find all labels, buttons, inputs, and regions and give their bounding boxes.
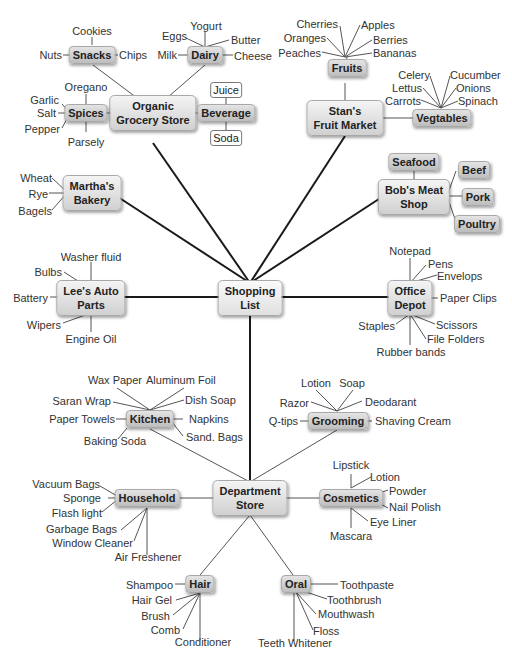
soda-node[interactable]: Soda — [210, 130, 242, 146]
node-label: Shopping — [225, 284, 276, 298]
leaf-item: Cheese — [234, 50, 272, 62]
node-label: Bakery — [70, 193, 115, 207]
leaf-item: Nail Polish — [389, 501, 441, 513]
seafood-node[interactable]: Seafood — [388, 153, 439, 171]
leaf-item: Shampoo — [126, 579, 173, 591]
leaf-item: Onions — [456, 82, 491, 94]
leaf-item: Q-tips — [269, 415, 298, 427]
hair-node[interactable]: Hair — [185, 575, 214, 593]
lees-auto-parts-node[interactable]: Lee's Auto Parts — [56, 280, 125, 316]
leaf-item: Garlic — [30, 94, 59, 106]
leaf-item: Engine Oil — [66, 333, 117, 345]
bobs-meat-shop-node[interactable]: Bob's Meat Shop — [378, 179, 450, 215]
node-label: Fruit Market — [314, 118, 377, 132]
leaf-item: Wax Paper — [88, 374, 142, 386]
leaf-item: Butter — [231, 34, 260, 46]
leaf-item: Deodarant — [365, 396, 416, 408]
leaf-item: Paper Clips — [440, 292, 497, 304]
leaf-item: Window Cleaner — [52, 537, 133, 549]
juice-node[interactable]: Juice — [210, 82, 242, 98]
leaf-item: Apples — [361, 19, 395, 31]
node-label: Bob's Meat — [385, 183, 443, 197]
node-label: Organic — [116, 99, 189, 113]
leaf-item: Mascara — [330, 530, 372, 542]
leaf-item: Oranges — [284, 32, 326, 44]
vegtables-node[interactable]: Vegtables — [412, 109, 471, 127]
leaf-item: Cookies — [72, 25, 112, 37]
leaf-item: Paper Towels — [49, 413, 115, 425]
pork-node[interactable]: Pork — [462, 188, 494, 206]
beverage-node[interactable]: Beverage — [197, 104, 255, 122]
leaf-item: Cherries — [296, 18, 338, 30]
leaf-item: Lotion — [370, 471, 400, 483]
marthas-bakery-node[interactable]: Martha's Bakery — [63, 175, 122, 211]
fruits-node[interactable]: Fruits — [328, 59, 367, 77]
leaf-item: Lotion — [301, 377, 331, 389]
leaf-item: Oregano — [65, 81, 108, 93]
leaf-item: Comb — [151, 624, 180, 636]
leaf-item: File Folders — [427, 333, 484, 345]
leaf-item: Peaches — [278, 47, 321, 59]
node-label: Department — [219, 484, 280, 498]
beef-node[interactable]: Beef — [458, 161, 490, 179]
leaf-item: Garbage Bags — [46, 523, 117, 535]
node-label: Depot — [394, 298, 425, 312]
node-label: Parts — [63, 298, 118, 312]
snacks-node[interactable]: Snacks — [69, 46, 116, 64]
leaf-item: Razor — [280, 397, 309, 409]
leaf-item: Powder — [389, 485, 426, 497]
leaf-item: Sponge — [63, 492, 101, 504]
leaf-item: Rye — [28, 188, 48, 200]
spices-node[interactable]: Spices — [64, 104, 107, 122]
leaf-item: Sand. Bags — [186, 431, 243, 443]
organic-grocery-store-node[interactable]: Organic Grocery Store — [109, 95, 196, 131]
oral-node[interactable]: Oral — [281, 575, 311, 593]
leaf-item: Lipstick — [333, 459, 370, 471]
leaf-item: Bagels — [18, 205, 52, 217]
leaf-item: Pens — [428, 258, 453, 270]
poultry-node[interactable]: Poultry — [454, 215, 500, 233]
leaf-item: Wipers — [27, 319, 61, 331]
department-store-node[interactable]: Department Store — [212, 480, 287, 516]
leaf-item: Pepper — [25, 123, 60, 135]
grooming-node[interactable]: Grooming — [308, 412, 369, 430]
leaf-item: Aluminum Foil — [146, 374, 216, 386]
leaf-item: Berries — [373, 34, 408, 46]
shopping-list-node[interactable]: Shopping List — [218, 280, 283, 316]
kitchen-node[interactable]: Kitchen — [126, 410, 174, 428]
node-label: Shop — [385, 197, 443, 211]
leaf-item: Notepad — [389, 245, 431, 257]
leaf-item: Brush — [141, 610, 170, 622]
leaf-item: Carrots — [385, 95, 421, 107]
leaf-item: Toothbrush — [327, 594, 381, 606]
leaf-item: Bananas — [373, 47, 416, 59]
leaf-item: Staples — [358, 320, 395, 332]
leaf-item: Baking Soda — [84, 435, 146, 447]
leaf-item: Battery — [13, 292, 48, 304]
mind-map-canvas: Shopping List Organic Grocery Store Stan… — [0, 0, 512, 667]
leaf-item: Milk — [157, 49, 177, 61]
stans-fruit-market-node[interactable]: Stan's Fruit Market — [307, 100, 384, 136]
leaf-item: Yogurt — [190, 20, 221, 32]
household-node[interactable]: Household — [115, 489, 180, 507]
leaf-item: Salt — [37, 107, 56, 119]
leaf-item: Soap — [339, 377, 365, 389]
leaf-item: Envelops — [437, 270, 482, 282]
leaf-item: Conditioner — [175, 636, 231, 648]
leaf-item: Washer fluid — [61, 251, 122, 263]
cosmetics-node[interactable]: Cosmetics — [319, 489, 383, 507]
leaf-item: Nuts — [39, 49, 62, 61]
node-label: Lee's Auto — [63, 284, 118, 298]
node-label: Martha's — [70, 179, 115, 193]
leaf-item: Cucumber — [450, 69, 501, 81]
leaf-item: Chips — [119, 49, 147, 61]
office-depot-node[interactable]: Office Depot — [387, 280, 432, 316]
leaf-item: Spinach — [458, 95, 498, 107]
dairy-node[interactable]: Dairy — [187, 46, 223, 64]
leaf-item: Saran Wrap — [53, 395, 112, 407]
node-label: Office — [394, 284, 425, 298]
leaf-item: Air Freshener — [115, 551, 182, 563]
leaf-item: Eye Liner — [370, 516, 416, 528]
leaf-item: Parsely — [68, 136, 105, 148]
node-label: Stan's — [314, 104, 377, 118]
